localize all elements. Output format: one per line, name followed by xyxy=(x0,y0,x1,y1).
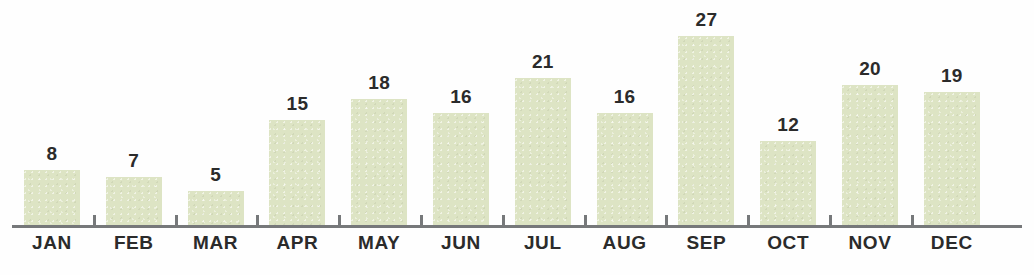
bar-value-label: 20 xyxy=(830,58,910,80)
category-label-dec: DEC xyxy=(912,232,992,254)
axis-tick xyxy=(584,215,587,226)
axis-tick xyxy=(93,215,96,226)
bar-value-label: 19 xyxy=(912,65,992,87)
axis-tick xyxy=(747,215,750,226)
category-label-jul: JUL xyxy=(503,232,583,254)
bar-column: 16 xyxy=(597,0,653,227)
bar-apr xyxy=(269,120,325,226)
category-label-oct: OCT xyxy=(748,232,828,254)
axis-tick xyxy=(175,215,178,226)
bar-jul xyxy=(515,78,571,226)
bar-value-label: 8 xyxy=(12,143,92,165)
bar-nov xyxy=(842,85,898,226)
bar-oct xyxy=(760,141,816,226)
bar-may xyxy=(351,99,407,226)
bar-jun xyxy=(433,113,489,226)
bar-column: 16 xyxy=(433,0,489,227)
x-axis-line xyxy=(12,225,1022,228)
bar-value-label: 21 xyxy=(503,51,583,73)
bar-value-label: 18 xyxy=(339,72,419,94)
bar-value-label: 16 xyxy=(421,86,501,108)
bar-column: 19 xyxy=(924,0,980,227)
axis-tick xyxy=(420,215,423,226)
plot-area: 875151816211627122019 xyxy=(0,0,1034,227)
category-axis: JANFEBMARAPRMAYJUNJULAUGSEPOCTNOVDEC xyxy=(0,232,1034,275)
category-label-jun: JUN xyxy=(421,232,501,254)
bar-value-label: 7 xyxy=(94,150,174,172)
bar-column: 15 xyxy=(269,0,325,227)
bar-column: 27 xyxy=(678,0,734,227)
axis-tick xyxy=(256,215,259,226)
bar-chart: 875151816211627122019 JANFEBMARAPRMAYJUN… xyxy=(0,0,1034,275)
axis-tick xyxy=(911,215,914,226)
category-label-aug: AUG xyxy=(585,232,665,254)
bar-value-label: 27 xyxy=(666,9,746,31)
bar-column: 12 xyxy=(760,0,816,227)
bar-column: 7 xyxy=(106,0,162,227)
bar-feb xyxy=(106,177,162,226)
bar-column: 21 xyxy=(515,0,571,227)
bar-value-label: 12 xyxy=(748,114,828,136)
category-label-jan: JAN xyxy=(12,232,92,254)
category-label-feb: FEB xyxy=(94,232,174,254)
bar-value-label: 15 xyxy=(257,93,337,115)
bar-aug xyxy=(597,113,653,226)
bar-jan xyxy=(24,170,80,226)
bar-column: 20 xyxy=(842,0,898,227)
bar-dec xyxy=(924,92,980,226)
category-label-sep: SEP xyxy=(666,232,746,254)
bar-sep xyxy=(678,36,734,226)
bar-value-label: 5 xyxy=(176,164,256,186)
bar-value-label: 16 xyxy=(585,86,665,108)
axis-tick xyxy=(502,215,505,226)
category-label-mar: MAR xyxy=(176,232,256,254)
category-label-apr: APR xyxy=(257,232,337,254)
bar-column: 18 xyxy=(351,0,407,227)
axis-tick xyxy=(829,215,832,226)
bar-column: 8 xyxy=(24,0,80,227)
bar-column: 5 xyxy=(188,0,244,227)
bar-mar xyxy=(188,191,244,226)
axis-tick xyxy=(665,215,668,226)
category-label-may: MAY xyxy=(339,232,419,254)
axis-tick xyxy=(338,215,341,226)
category-label-nov: NOV xyxy=(830,232,910,254)
